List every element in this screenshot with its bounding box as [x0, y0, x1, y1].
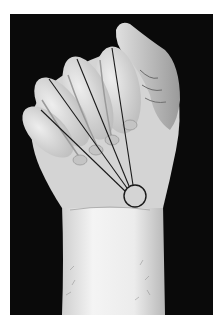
fist-photo	[0, 0, 220, 325]
fingernail	[123, 120, 137, 130]
fingernail	[73, 155, 87, 165]
fingernail	[89, 145, 103, 155]
wrist	[62, 205, 165, 315]
